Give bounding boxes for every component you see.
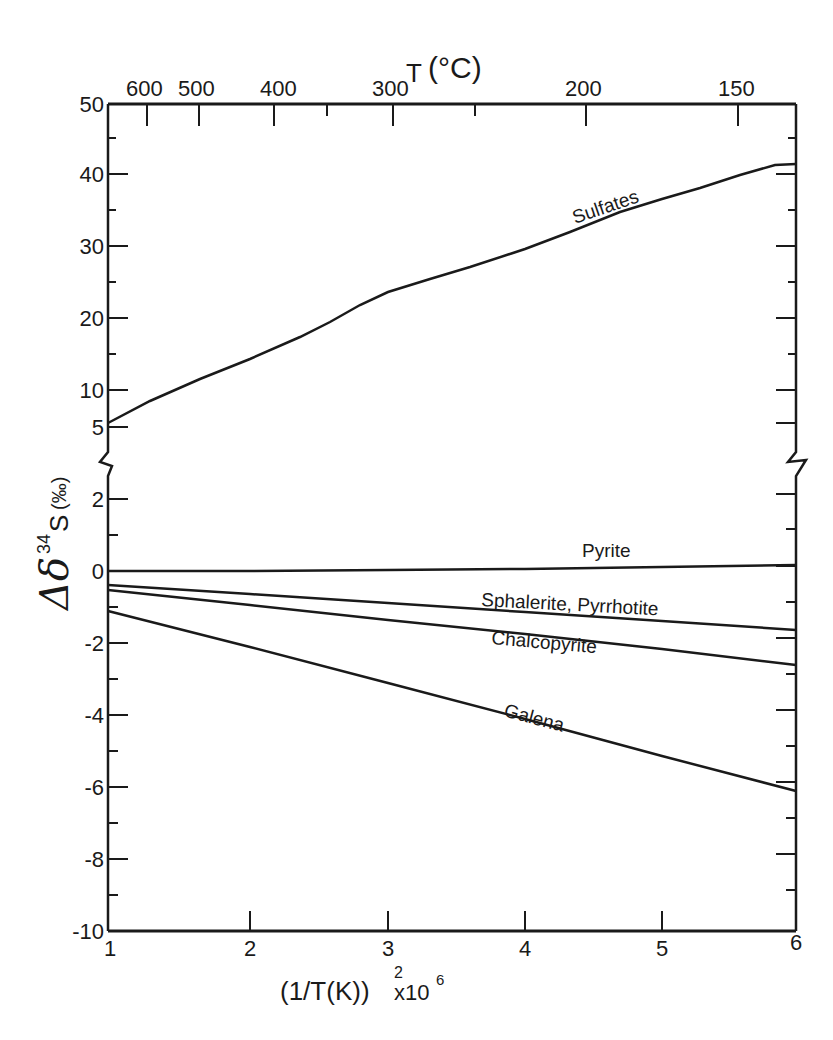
y-axis-ticks-lower bbox=[108, 499, 128, 895]
series-galena-line bbox=[108, 611, 796, 791]
svg-text:2: 2 bbox=[244, 936, 256, 961]
right-axis-ticks bbox=[776, 138, 796, 890]
svg-text:6: 6 bbox=[790, 930, 802, 955]
svg-text:6: 6 bbox=[436, 971, 444, 988]
svg-text:400: 400 bbox=[260, 76, 297, 101]
svg-text:-10: -10 bbox=[72, 919, 104, 944]
y-axis-ticks-upper bbox=[108, 138, 128, 427]
series-pyrite-line bbox=[108, 565, 796, 571]
plot-frame bbox=[100, 104, 806, 931]
svg-text:-8: -8 bbox=[84, 847, 104, 872]
svg-text:600: 600 bbox=[126, 76, 163, 101]
svg-text:300: 300 bbox=[372, 76, 409, 101]
svg-text:150: 150 bbox=[718, 76, 755, 101]
svg-text:1: 1 bbox=[104, 936, 116, 961]
svg-text:40: 40 bbox=[80, 162, 104, 187]
svg-text:200: 200 bbox=[565, 76, 602, 101]
svg-text:-2: -2 bbox=[84, 631, 104, 656]
chart: T (°C) 600 500 400 300 200 150 bbox=[0, 0, 833, 1040]
svg-text:34: 34 bbox=[34, 534, 54, 554]
svg-text:Galena: Galena bbox=[502, 700, 567, 736]
svg-text:0: 0 bbox=[92, 559, 104, 584]
svg-text:Sulfates: Sulfates bbox=[569, 186, 641, 228]
svg-text:-4: -4 bbox=[84, 703, 104, 728]
y-axis-title: Δδ 34 S (‰) bbox=[31, 477, 77, 612]
svg-text:2: 2 bbox=[394, 964, 403, 981]
y-axis-tick-labels: 50 40 30 20 10 5 2 0 -2 -4 -6 -8 -10 bbox=[72, 92, 104, 944]
top-axis-ticks bbox=[147, 104, 738, 126]
series-chalcopyrite-line bbox=[108, 590, 796, 665]
svg-text:(°C): (°C) bbox=[428, 51, 482, 84]
svg-text:50: 50 bbox=[80, 92, 104, 117]
x-axis-tick-labels: 1 2 3 4 5 6 bbox=[104, 930, 802, 961]
x-axis-ticks bbox=[250, 911, 662, 931]
svg-text:(1/T(K)): (1/T(K)) bbox=[280, 976, 370, 1006]
series-sphalerite-line bbox=[108, 585, 796, 630]
series-lines bbox=[108, 164, 796, 791]
svg-text:-6: -6 bbox=[84, 775, 104, 800]
x-axis-title: (1/T(K)) 2 x10 6 bbox=[280, 964, 444, 1006]
svg-text:Δδ: Δδ bbox=[31, 557, 77, 612]
series-sulfates-line bbox=[108, 164, 796, 423]
svg-text:5: 5 bbox=[656, 936, 668, 961]
svg-text:(‰): (‰) bbox=[48, 477, 70, 510]
svg-text:20: 20 bbox=[80, 306, 104, 331]
svg-text:2: 2 bbox=[92, 487, 104, 512]
svg-text:Chalcopyrite: Chalcopyrite bbox=[491, 627, 598, 657]
svg-text:3: 3 bbox=[382, 936, 394, 961]
svg-text:S: S bbox=[44, 515, 74, 532]
top-axis-title: T (°C) bbox=[406, 51, 482, 88]
svg-text:x10: x10 bbox=[394, 980, 429, 1005]
svg-text:500: 500 bbox=[178, 76, 215, 101]
svg-text:10: 10 bbox=[80, 378, 104, 403]
svg-text:5: 5 bbox=[92, 415, 104, 440]
svg-text:Pyrite: Pyrite bbox=[582, 540, 631, 561]
svg-text:30: 30 bbox=[80, 234, 104, 259]
svg-text:4: 4 bbox=[519, 936, 531, 961]
series-labels: Sulfates Pyrite Sphalerite, Pyrrhotite C… bbox=[481, 186, 659, 736]
